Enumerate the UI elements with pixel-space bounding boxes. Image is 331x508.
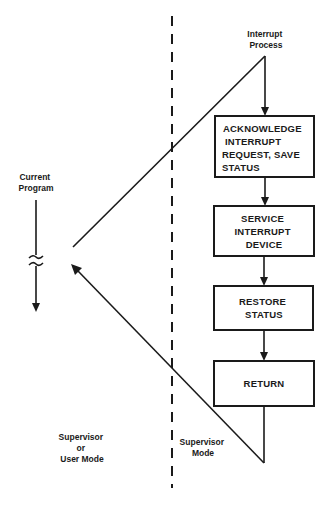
current-program-label: Current Program [19,172,54,193]
arrowhead-icon [261,197,269,206]
interrupt-process-label: Interrupt Process [247,29,284,50]
arrowhead-icon [260,277,268,286]
arrowhead-icon [261,107,269,116]
supervisor-mode-label: Supervisor Mode [180,437,227,458]
supervisor-or-user-mode-label: Supervisor or User Mode [59,432,106,464]
step-box-restore [214,286,313,330]
interrupt-flow-diagram: Interrupt Process ACKNOWLEDGE INTERRUPT … [0,0,331,508]
arrowhead-icon [260,352,268,361]
step-text-return: RETURN [244,378,285,389]
arrowhead-icon [32,303,40,312]
break-symbol-icon [29,256,43,266]
